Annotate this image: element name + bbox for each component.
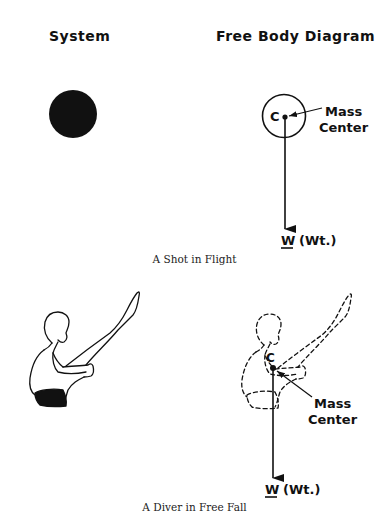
mass-center-label-line2: Center	[319, 120, 369, 135]
diver-weight-label: (Wt.)	[283, 482, 320, 497]
diver-weight-symbol: W	[265, 482, 279, 497]
diver-mass-center-label-line2: Center	[308, 412, 358, 427]
weight-symbol: W	[281, 233, 295, 248]
diver-trunks	[35, 389, 66, 406]
diver-caption: A Diver in Free Fall	[0, 501, 389, 513]
diver-mass-center-label-line1: Mass	[314, 396, 351, 411]
diver-figure	[30, 292, 140, 407]
diver-free-body-diagram: C Mass Center W (Wt.)	[242, 294, 358, 497]
shot-ball	[49, 90, 97, 138]
weight-label: (Wt.)	[299, 233, 336, 248]
shot-caption: A Shot in Flight	[0, 253, 389, 265]
diver-dashed-outline	[242, 294, 352, 409]
shot-free-body-diagram: C Mass Center W (Wt.)	[263, 95, 369, 249]
diver-center-label: C	[266, 351, 275, 365]
mass-center-label-line1: Mass	[325, 104, 362, 119]
center-label: C	[270, 109, 280, 124]
